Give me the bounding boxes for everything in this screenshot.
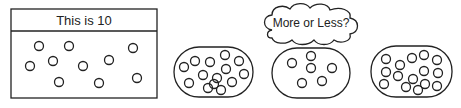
- reference-box-title: This is 10: [11, 9, 157, 31]
- oval-middle-dots: [288, 52, 337, 88]
- oval-right-dots: [380, 51, 443, 95]
- oval-left-dots: [180, 51, 249, 95]
- reference-dots: [26, 42, 142, 88]
- cloud-question: More or Less?: [264, 8, 358, 38]
- oval-left: [174, 47, 253, 97]
